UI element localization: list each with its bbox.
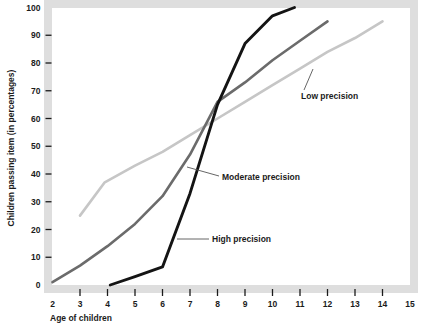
x-tick-label: 10 [268,299,278,309]
x-tick-label: 3 [78,299,83,309]
x-tick-label: 15 [405,299,415,309]
y-tick-label: 10 [31,252,41,262]
y-tick-label: 30 [31,197,41,207]
x-tick-label: 8 [215,299,220,309]
x-axis-title: Age of children [50,313,112,323]
series-label-moderate-precision: Moderate precision [222,172,300,182]
x-tick-label: 11 [296,299,305,309]
x-tick-label: 12 [323,299,333,309]
x-tick-label: 9 [243,299,248,309]
y-tick-label: 40 [31,169,41,179]
x-tick-label: 7 [188,299,193,309]
x-tick-label: 5 [133,299,138,309]
series-label-low-precision: Low precision [301,91,358,101]
y-tick-label: 90 [31,30,41,40]
y-tick-label: 20 [31,225,41,235]
y-tick-label: 0 [36,280,41,290]
y-tick-label: 60 [31,114,41,124]
y-tick-label: 70 [31,86,41,96]
x-tick-label: 13 [350,299,360,309]
line-chart-canvas: 0102030405060708090100 23456789101112131… [0,0,424,331]
x-tick-label: 4 [105,299,110,309]
x-tick-label: 6 [160,299,165,309]
plot-frame [48,4,414,289]
y-tick-label: 100 [26,3,40,13]
series-label-high-precision: High precision [212,234,271,244]
chart-figure: 0102030405060708090100 23456789101112131… [0,0,424,331]
y-axis-title: Children passing item (in percentages) [6,69,16,226]
y-tick-label: 80 [31,58,41,68]
x-tick-label: 2 [50,299,55,309]
x-tick-label: 14 [378,299,388,309]
y-tick-label: 50 [31,141,41,151]
